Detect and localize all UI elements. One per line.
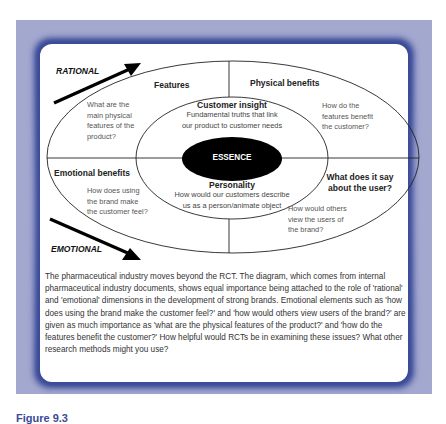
features-question: What are the main physical features of t… <box>87 100 134 142</box>
physical-benefits-title: Physical benefits <box>250 78 319 88</box>
personality-title: Personality <box>172 180 292 190</box>
customer-insight-title: Customer insight <box>172 100 292 110</box>
figure-label: Figure 9.3 <box>16 412 68 424</box>
user-title: What does it say about the user? <box>320 172 400 194</box>
emotional-label: EMOTIONAL <box>51 244 102 254</box>
emotional-benefits-question: How does using the brand make the custom… <box>87 186 148 218</box>
user-question: How would others view the users of the b… <box>288 204 347 236</box>
customer-insight-text: Fundamental truths that link our product… <box>162 110 302 131</box>
features-title: Features <box>154 80 189 90</box>
physical-benefits-question: How do the features benefit the customer… <box>322 101 373 133</box>
emotional-arrow-icon <box>122 248 141 260</box>
rational-label: RATIONAL <box>56 66 99 76</box>
emotional-benefits-title: Emotional benefits <box>54 168 130 178</box>
figure-caption: The pharmaceutical industry moves beyond… <box>45 271 407 356</box>
essence-label: ESSENCE <box>182 153 282 162</box>
personality-text: How would our customers describe us as a… <box>162 190 302 211</box>
